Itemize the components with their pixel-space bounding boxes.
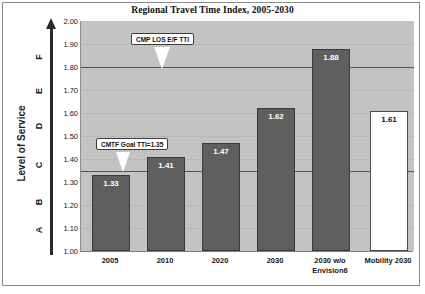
gridline-1-20: [81, 205, 414, 206]
gridline-1-10: [81, 228, 414, 229]
cmtf-goal-callout: CMTF Goal TTI=1.35: [96, 138, 168, 150]
arrow-shaft: [50, 26, 53, 255]
bar-value-label: 1.33: [93, 179, 129, 188]
cmtf-goal-callout-tail: [116, 152, 130, 172]
cmp-los-callout-tail: [154, 47, 170, 69]
x-axis-baseline: [80, 251, 413, 252]
y-tick-label: 1.50: [58, 132, 78, 141]
los-letter-b: B: [34, 195, 44, 209]
gridline-1-40: [81, 159, 414, 160]
bar-value-label: 1.47: [203, 147, 239, 156]
bar-2030-wo-envision6[interactable]: 1.88: [312, 49, 350, 251]
x-label-2030-wo-envision6: 2030 w/o Envision6: [302, 256, 358, 276]
y-tick-label: 1.70: [58, 86, 78, 95]
y-tick-label: 1.80: [58, 63, 78, 72]
y-axis-title: Level of Service: [16, 89, 27, 199]
bar-2020[interactable]: 1.47: [202, 143, 240, 251]
bar-value-label: 1.62: [258, 112, 294, 121]
los-letter-c: C: [34, 158, 44, 172]
y-axis-tick-labels: 2.00 1.90 1.80 1.70 1.60 1.50 1.40 1.30 …: [58, 0, 78, 294]
bar-2030[interactable]: 1.62: [257, 108, 295, 251]
y-tick-label: 1.20: [58, 201, 78, 210]
x-label-2010: 2010: [135, 256, 195, 266]
bar-value-label: 1.41: [148, 161, 184, 170]
chart-figure: Regional Travel Time Index, 2005-2030 Le…: [0, 0, 425, 294]
x-axis-category-labels: 2005 2010 2020 2030 2030 w/o Envision6 M…: [80, 256, 413, 292]
y-tick-label: 1.60: [58, 109, 78, 118]
los-letter-a: A: [34, 223, 44, 237]
y-tick-label: 1.10: [58, 224, 78, 233]
los-letter-d: D: [34, 119, 44, 133]
x-label-mobility-2030: Mobility 2030: [358, 256, 418, 266]
x-label-2030: 2030: [245, 256, 305, 266]
gridline-1-50: [81, 136, 414, 137]
level-of-service-scale: A B C D E F: [32, 20, 46, 255]
los-letter-e: E: [34, 84, 44, 98]
bar-value-label: 1.88: [313, 53, 349, 62]
bar-mobility-2030[interactable]: 1.61: [370, 111, 408, 251]
bar-2010[interactable]: 1.41: [147, 157, 185, 251]
y-tick-label: 1.40: [58, 155, 78, 164]
bar-2005[interactable]: 1.33: [92, 175, 130, 251]
plot-area: 1.33 1.41 1.47 1.62 1.88 1.61 CMP LOS E/…: [80, 21, 414, 251]
y-tick-label: 1.30: [58, 178, 78, 187]
x-label-2005: 2005: [80, 256, 140, 266]
cmp-los-callout: CMP LOS E/F TTI: [131, 33, 194, 45]
y-tick-label: 1.90: [58, 40, 78, 49]
y-tick-label: 2.00: [58, 17, 78, 26]
x-label-2020: 2020: [190, 256, 250, 266]
y-tick-label: 1.00: [58, 247, 78, 256]
bar-value-label: 1.61: [371, 115, 407, 124]
gridline-1-60: [81, 113, 414, 114]
los-letter-f: F: [34, 50, 44, 64]
reference-line-cmtf-goal: [81, 171, 414, 172]
level-of-service-arrow-icon: [46, 18, 57, 255]
gridline-1-70: [81, 90, 414, 91]
reference-line-cmp-los: [81, 67, 414, 68]
